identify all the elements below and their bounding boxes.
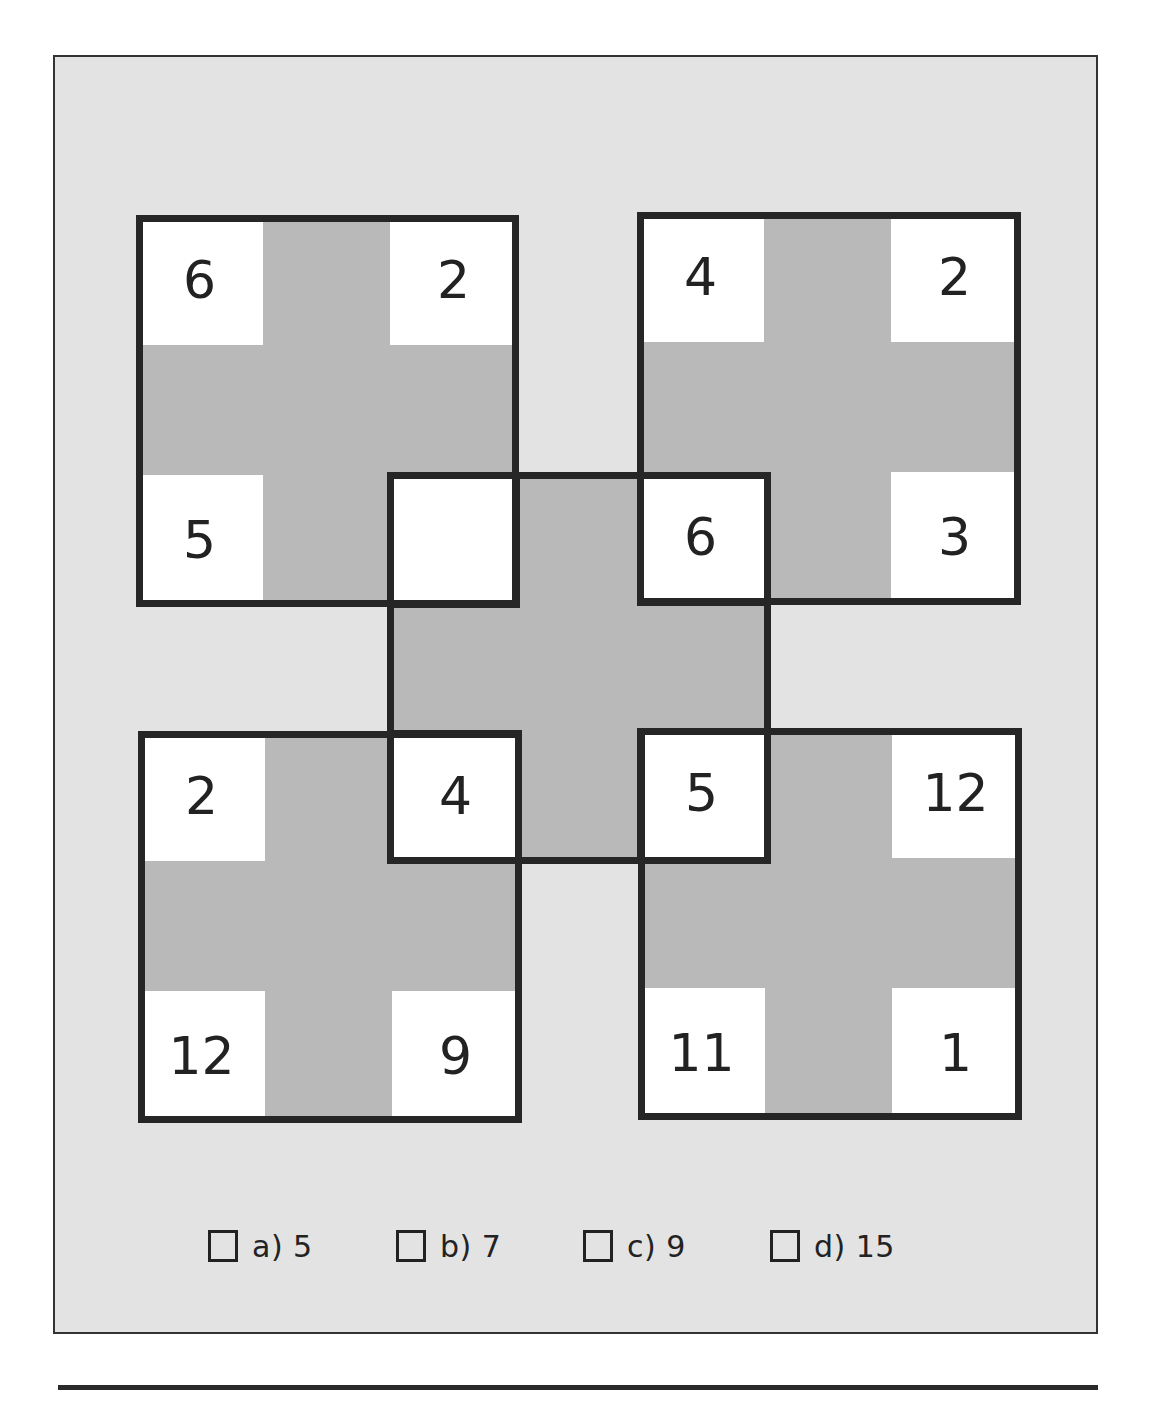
cell-top-left-ml <box>136 345 263 475</box>
cell-bottom-left-br: 9 <box>392 991 519 1121</box>
cell-value: 12 <box>922 763 988 823</box>
cell-top-right-ml <box>637 342 764 472</box>
answer-options: a) 5 b) 7 c) 9 d) 15 <box>0 1228 1154 1264</box>
cell-top-left-tl: 6 <box>136 215 263 345</box>
cell-bottom-left-bc <box>265 991 392 1121</box>
cell-bottom-left-ml <box>138 861 265 991</box>
cell-top-left-bl: 5 <box>136 475 263 605</box>
cell-value: 1 <box>939 1023 972 1083</box>
cell-top-right-bc <box>764 472 891 602</box>
cell-top-right-tl: 4 <box>637 212 764 342</box>
cell-bottom-right-bc <box>765 988 892 1118</box>
option-a[interactable]: a) 5 <box>208 1228 313 1264</box>
checkbox-icon[interactable] <box>396 1230 426 1262</box>
cell-bottom-right-mc <box>765 858 892 988</box>
cell-top-left-tc <box>263 215 390 345</box>
cell-value: 2 <box>185 766 218 826</box>
cell-center-mr <box>642 604 769 734</box>
cell-bottom-right-br: 1 <box>892 988 1019 1118</box>
option-label: c) 9 <box>627 1229 686 1264</box>
cell-bottom-right-mr <box>892 858 1019 988</box>
cell-value: 5 <box>183 510 216 570</box>
cell-bottom-right-tc <box>765 728 892 858</box>
cell-value: 9 <box>439 1026 472 1086</box>
cell-bottom-right-tr: 12 <box>892 728 1019 858</box>
checkbox-icon[interactable] <box>208 1230 238 1262</box>
cell-top-left-tr: 2 <box>390 215 517 345</box>
cell-center-mc <box>515 604 642 734</box>
checkbox-icon[interactable] <box>770 1230 800 1262</box>
cell-top-right-br: 3 <box>891 472 1018 602</box>
cell-top-right-tr: 2 <box>891 212 1018 342</box>
cell-value: 4 <box>684 247 717 307</box>
cell-top-left-bc <box>263 475 390 605</box>
cell-top-right-tc <box>764 212 891 342</box>
cell-value: 2 <box>938 247 971 307</box>
option-label: b) 7 <box>440 1229 501 1264</box>
cell-top-right-mr <box>891 342 1018 472</box>
cell-value: 6 <box>183 250 216 310</box>
cell-center-bc <box>515 732 642 862</box>
cell-center-ml <box>388 604 515 734</box>
cell-top-left-mc <box>263 345 390 475</box>
cell-center-tc <box>515 474 642 604</box>
option-c[interactable]: c) 9 <box>583 1228 686 1264</box>
cell-bottom-left-mc <box>265 861 392 991</box>
cell-value: 12 <box>168 1026 234 1086</box>
option-label: a) 5 <box>252 1229 313 1264</box>
cell-value: 2 <box>437 250 470 310</box>
cell-bottom-left-tc <box>265 731 392 861</box>
cell-top-right-mc <box>764 342 891 472</box>
cell-bottom-left-bl: 12 <box>138 991 265 1121</box>
cell-bottom-left-tl: 2 <box>138 731 265 861</box>
cell-bottom-right-ml <box>638 858 765 988</box>
cell-bottom-left-mr <box>392 861 519 991</box>
cell-value: 11 <box>668 1023 734 1083</box>
cell-bottom-right-bl: 11 <box>638 988 765 1118</box>
bottom-divider <box>58 1385 1098 1390</box>
square-center <box>388 474 770 862</box>
cell-value: 3 <box>938 507 971 567</box>
checkbox-icon[interactable] <box>583 1230 613 1262</box>
option-d[interactable]: d) 15 <box>770 1228 895 1264</box>
option-b[interactable]: b) 7 <box>396 1228 501 1264</box>
cell-top-left-mr <box>390 345 517 475</box>
option-label: d) 15 <box>814 1229 895 1264</box>
